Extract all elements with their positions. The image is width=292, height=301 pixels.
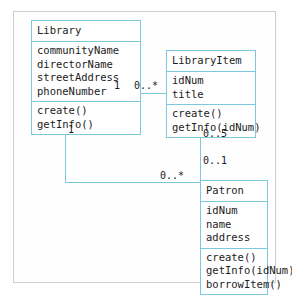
- association-line-library-libraryitem: [140, 93, 167, 94]
- operation-item: create(): [172, 107, 250, 121]
- multiplicity-patron-to-library: 0..*: [160, 170, 184, 181]
- multiplicity-patron-to-libraryitem: 0..1: [203, 155, 227, 166]
- association-line-library-patron-horizontal: [65, 182, 200, 183]
- class-name-library: Library: [32, 21, 140, 41]
- attribute-item: name: [206, 218, 262, 232]
- operation-item: getInfo(): [37, 118, 135, 132]
- operation-item: getInfo(idNum): [206, 264, 262, 278]
- multiplicity-library-side: 1: [114, 80, 120, 91]
- multiplicity-libraryitem-side: 0..*: [134, 80, 158, 91]
- attribute-item: title: [172, 88, 250, 102]
- attribute-item: communityName: [37, 44, 135, 58]
- operation-item: create(): [206, 251, 262, 265]
- attribute-item: directorName: [37, 58, 135, 72]
- class-name-patron: Patron: [201, 181, 267, 201]
- multiplicity-libraryitem-to-patron: 0..5: [203, 128, 227, 139]
- attribute-item: phoneNumber: [37, 85, 135, 99]
- class-box-library[interactable]: Library communityName directorName stree…: [31, 20, 141, 135]
- attribute-item: address: [206, 231, 262, 245]
- attribute-item: idNum: [172, 74, 250, 88]
- class-attributes-library: communityName directorName streetAddress…: [32, 42, 140, 101]
- class-name-libraryitem: LibraryItem: [167, 51, 255, 71]
- class-attributes-libraryitem: idNum title: [167, 72, 255, 104]
- class-operations-patron: create() getInfo(idNum) borrowItem(): [201, 249, 267, 295]
- operation-item: borrowItem(): [206, 278, 262, 292]
- multiplicity-library-to-patron: 1: [68, 124, 74, 135]
- attribute-item: streetAddress: [37, 71, 135, 85]
- class-operations-library: create() getInfo(): [32, 102, 140, 134]
- operation-item: create(): [37, 104, 135, 118]
- class-attributes-patron: idNum name address: [201, 202, 267, 248]
- class-box-patron[interactable]: Patron idNum name address create() getIn…: [200, 180, 268, 295]
- diagram-canvas: 1 0..* 0..5 0..1 1 0..* Library communit…: [0, 0, 292, 301]
- class-box-libraryitem[interactable]: LibraryItem idNum title create() getInfo…: [166, 50, 256, 138]
- attribute-item: idNum: [206, 204, 262, 218]
